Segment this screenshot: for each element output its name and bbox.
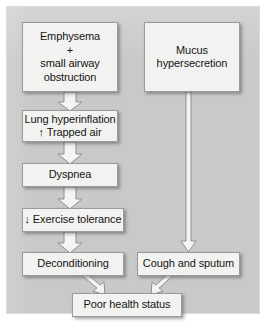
- node-poor-health-status: Poor health status: [72, 293, 182, 317]
- arrow-hyperinflation-to-dyspnea: [58, 142, 82, 164]
- node-lung-hyperinflation-label: Lung hyperinflation ↑ Trapped air: [23, 113, 117, 140]
- node-poor-health-status-label: Poor health status: [73, 298, 181, 312]
- node-cough-and-sputum: Cough and sputum: [137, 252, 240, 276]
- node-mucus-hypersecretion-label: Mucus hypersecretion: [145, 44, 239, 71]
- node-deconditioning-label: Deconditioning: [23, 257, 123, 271]
- node-lung-hyperinflation: Lung hyperinflation ↑ Trapped air: [22, 110, 118, 142]
- node-cough-and-sputum-label: Cough and sputum: [138, 257, 239, 271]
- node-dyspnea: Dyspnea: [22, 163, 118, 187]
- node-mucus-hypersecretion: Mucus hypersecretion: [144, 22, 240, 92]
- arrow-exercise-to-deconditioning: [58, 232, 82, 253]
- node-deconditioning: Deconditioning: [22, 252, 124, 276]
- arrow-emphysema-to-hyperinflation: [58, 92, 82, 111]
- arrow-mucus-to-cough: [181, 92, 196, 252]
- node-dyspnea-label: Dyspnea: [23, 168, 117, 182]
- node-exercise-tolerance: ↓ Exercise tolerance: [22, 208, 124, 232]
- arrow-dyspnea-to-exercise: [58, 187, 82, 209]
- node-exercise-tolerance-label: ↓ Exercise tolerance: [23, 213, 123, 227]
- node-emphysema: Emphysema + small airway obstruction: [22, 22, 118, 92]
- node-emphysema-label: Emphysema + small airway obstruction: [23, 30, 117, 84]
- copd-pathophysiology-diagram: Emphysema + small airway obstruction Muc…: [0, 0, 266, 325]
